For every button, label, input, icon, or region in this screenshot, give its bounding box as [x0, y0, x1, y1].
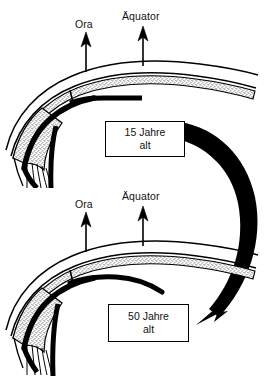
ora-upper-label: Ora [75, 19, 93, 30]
inner-wall-descending-lower-2 [53, 304, 58, 376]
age-box-15-line2: alt [139, 139, 150, 152]
callout-arrows-lower [81, 206, 148, 252]
inner-wall-descending-lower [24, 348, 37, 372]
detached-vitreous-membrane [70, 98, 142, 103]
inner-wall-descending-2 [51, 126, 56, 188]
age-box-15: 15 Jahre alt [105, 121, 185, 157]
age-box-50-line2: alt [143, 323, 154, 336]
aging-arrow-shaft [175, 122, 258, 317]
inner-wall-descending [24, 168, 37, 188]
age-box-50: 50 Jahre alt [108, 304, 189, 342]
ora-lower-label: Ora [75, 199, 93, 210]
figure-canvas: Ora Äquator 15 Jahre alt Ora Äquator 50 … [0, 0, 267, 382]
aging-progression-arrow [175, 122, 258, 325]
age-box-15-line1: 15 Jahre [125, 126, 166, 139]
aequator-upper-label: Äquator [122, 11, 159, 22]
detached-vitreous-membrane-lower [70, 277, 162, 292]
aequator-lower-label: Äquator [122, 191, 159, 202]
callout-arrows-upper [81, 26, 148, 72]
age-box-50-line1: 50 Jahre [128, 310, 169, 323]
